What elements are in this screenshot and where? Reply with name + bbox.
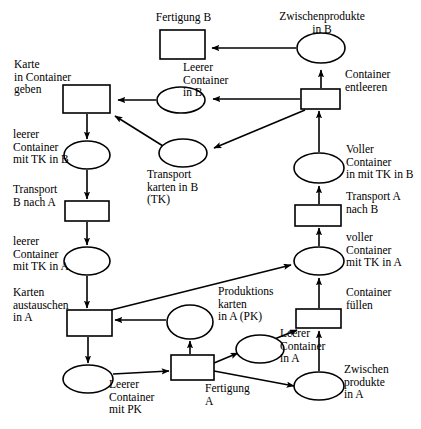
- arc-leerer-container-pk-to-fertigung-a: [113, 371, 169, 374]
- label-leerer-container-mit-tk-in-a: leerer Container mit TK in A: [13, 235, 69, 273]
- place-transportkarten-in-b[interactable]: [159, 139, 207, 167]
- label-karten-austauschen-in-a: Karten austauschen in A: [13, 286, 69, 324]
- place-leerer-container-mit-tk-in-a[interactable]: [64, 247, 110, 275]
- place-leerer-container-mit-tk-in-b[interactable]: [64, 141, 110, 169]
- label-fertigung-b: Fertigung B: [145, 11, 222, 24]
- transition-transport-b-nach-a[interactable]: [65, 201, 109, 221]
- label-leerer-container-mit-pk: Leerer Container mit PK: [109, 378, 154, 416]
- place-voller-container-mit-tk-in-a[interactable]: [294, 247, 344, 275]
- transition-fertigung-b[interactable]: [160, 30, 205, 59]
- label-leerer-container-in-b: Leerer Container in B: [183, 61, 228, 99]
- label-karte-in-container-geben: Karte in Container geben: [14, 58, 71, 96]
- place-zwischenprodukte-in-a[interactable]: [294, 372, 344, 400]
- arc-fertigung-a-to-leerer-container-a: [214, 353, 238, 363]
- label-produktionskarten-in-a: Produktions karten in A (PK): [218, 285, 274, 323]
- label-leerer-container-mit-tk-in-b: leerer Container mit TK in B: [13, 128, 69, 166]
- transition-fertigung-a[interactable]: [171, 355, 214, 380]
- label-zwischenprodukte-in-b: Zwischenprodukte in B: [262, 10, 382, 35]
- place-zwischenprodukte-in-b[interactable]: [297, 33, 345, 63]
- label-container-entleeren: Container entleeren: [345, 68, 390, 93]
- petri-net-diagram: Fertigung B Zwischenprodukte in B Karte …: [0, 0, 421, 429]
- transition-container-fuellen[interactable]: [296, 309, 341, 328]
- arc-container-entleeren-to-transportkarten-b: [214, 110, 305, 148]
- label-container-fuellen: Container füllen: [346, 286, 391, 311]
- transition-transport-a-nach-b[interactable]: [295, 205, 341, 226]
- place-voller-container-mit-tk-in-b[interactable]: [294, 153, 344, 183]
- arc-transportkarten-b-to-karte-geben: [115, 116, 163, 146]
- label-leerer-container-in-a: Leerer Container in A: [280, 327, 325, 365]
- transition-karten-austauschen-in-a[interactable]: [67, 310, 112, 336]
- label-transport-a-nach-b: Transport A nach B: [346, 190, 401, 215]
- place-leerer-container-in-a[interactable]: [236, 335, 284, 363]
- label-transport-b-nach-a: Transport B nach A: [13, 183, 57, 208]
- label-voller-container-mit-tk-in-a: voller Container mit TK in A: [346, 231, 402, 269]
- label-fertigung-a: Fertigung A: [205, 382, 250, 407]
- label-voller-container-mit-tk-in-b: Voller Container in mit TK in B: [346, 143, 414, 181]
- place-leerer-container-mit-pk[interactable]: [63, 365, 113, 393]
- transition-container-entleeren[interactable]: [301, 89, 340, 109]
- place-produktionskarten-in-a[interactable]: [167, 305, 213, 339]
- label-zwischenprodukte-in-a: Zwischen produkte in A: [344, 363, 389, 401]
- label-transportkarten-in-b: Transport karten in B (TK): [147, 168, 198, 206]
